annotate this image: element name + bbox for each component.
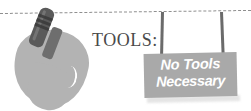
hanging-sign: No Tools Necessary — [140, 10, 251, 105]
sign-text-line-1: No Tools — [144, 55, 237, 74]
illustration-canvas: TOOLS: No Tools Necessary — [0, 0, 251, 111]
sign-board: No Tools Necessary — [144, 52, 238, 98]
sign-text-line-2: Necessary — [144, 72, 237, 91]
sign-text: No Tools Necessary — [144, 55, 238, 91]
garden-trowel-icon — [8, 4, 103, 109]
